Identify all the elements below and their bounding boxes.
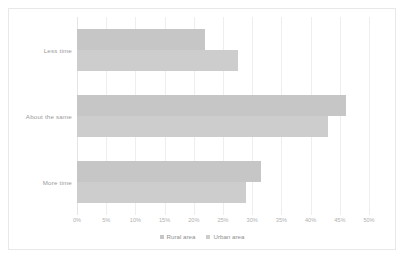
bar-rural-2: [77, 161, 261, 182]
legend-swatch-icon: [160, 235, 164, 239]
gridline-50%: [369, 17, 370, 215]
legend-label: Rural area: [167, 233, 196, 240]
category-label: More time: [0, 178, 72, 185]
category-label: Less time: [0, 46, 72, 53]
tick-label: 25%: [217, 217, 228, 223]
bar-group: More time: [77, 149, 369, 215]
legend-swatch-icon: [206, 235, 210, 239]
category-label: About the same: [0, 112, 72, 119]
plot-area: Less timeAbout the sameMore time: [77, 17, 369, 215]
tick-label: 5%: [102, 217, 110, 223]
tick-label: 30%: [247, 217, 258, 223]
legend-item-rural[interactable]: Rural area: [160, 233, 196, 240]
bar-group: About the same: [77, 83, 369, 149]
tick-label: 45%: [334, 217, 345, 223]
x-axis-tick-labels: 0%5%10%15%20%25%30%35%40%45%50%: [77, 217, 369, 231]
tick-label: 40%: [305, 217, 316, 223]
tick-label: 10%: [130, 217, 141, 223]
bar-row: [77, 161, 369, 182]
tick-label: 20%: [188, 217, 199, 223]
tick-label: 35%: [276, 217, 287, 223]
bar-urban-1: [77, 116, 328, 137]
bar-row: [77, 182, 369, 203]
legend-item-urban[interactable]: Urban area: [206, 233, 244, 240]
bar-urban-2: [77, 182, 246, 203]
bar-urban-0: [77, 50, 238, 71]
legend-label: Urban area: [213, 233, 244, 240]
bar-row: [77, 116, 369, 137]
tick-label: 0%: [73, 217, 81, 223]
bar-rural-0: [77, 29, 205, 50]
bar-rural-1: [77, 95, 346, 116]
bar-row: [77, 29, 369, 50]
tick-label: 15%: [159, 217, 170, 223]
bar-group: Less time: [77, 17, 369, 83]
chart-legend: Rural areaUrban area: [9, 233, 395, 240]
bar-row: [77, 50, 369, 71]
tick-label: 50%: [363, 217, 374, 223]
chart-container: Less timeAbout the sameMore time 0%5%10%…: [8, 8, 396, 250]
bar-row: [77, 95, 369, 116]
